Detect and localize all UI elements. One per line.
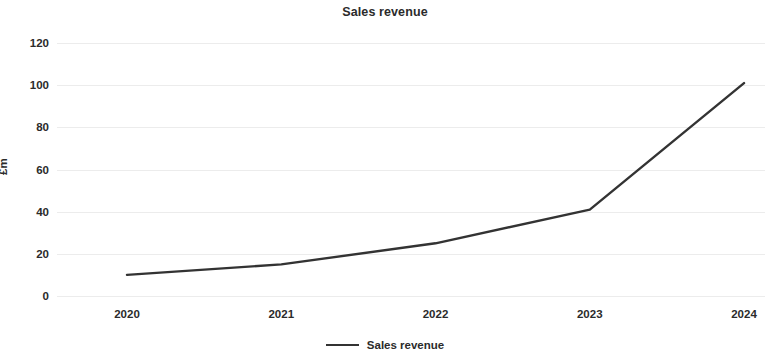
x-tick-label: 2020 [87,308,167,320]
legend-item-label: Sales revenue [367,339,444,351]
x-tick-label: 2022 [396,308,476,320]
y-tick-label: 100 [5,79,49,91]
y-axis-tick-labels: 020406080100120 [0,0,49,358]
sales-revenue-line-chart: Sales revenue £m 020406080100120 2020202… [0,0,770,358]
x-tick-label: 2023 [550,308,630,320]
y-tick-label: 120 [5,37,49,49]
y-tick-label: 0 [5,290,49,302]
legend-item-sales-revenue: Sales revenue [326,339,444,351]
x-tick-label: 2024 [704,308,770,320]
x-tick-label: 2021 [241,308,321,320]
y-tick-label: 20 [5,248,49,260]
legend-line-swatch-icon [326,344,359,346]
y-tick-label: 40 [5,206,49,218]
x-axis-tick-labels: 20202021202220232024 [57,308,765,326]
chart-legend: Sales revenue [0,339,770,351]
chart-title: Sales revenue [0,5,770,19]
y-tick-label: 60 [5,164,49,176]
gridline [57,296,765,297]
y-tick-label: 80 [5,121,49,133]
series-line-layer [57,43,765,296]
plot-area [57,43,765,296]
series-line-sales-revenue [127,83,744,275]
